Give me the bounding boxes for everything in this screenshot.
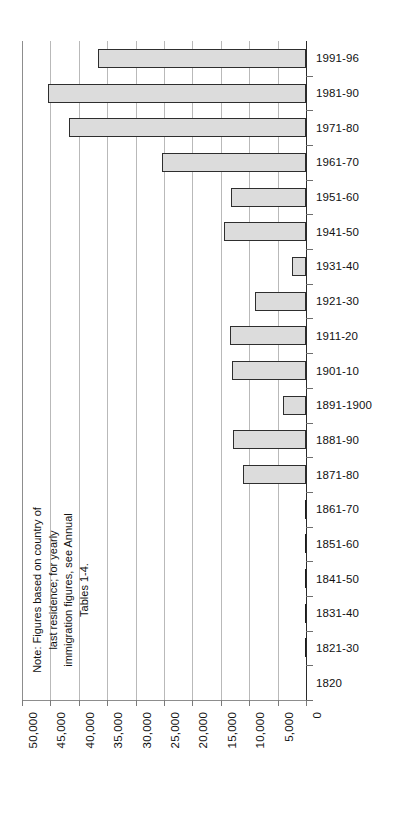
value-tick-label: 25,000 [169, 712, 181, 748]
gridline [192, 41, 193, 700]
category-label: 1941-50 [316, 226, 359, 238]
value-tick-mark [50, 700, 51, 706]
bar [243, 465, 306, 484]
category-tick-mark [306, 388, 313, 389]
value-tick-label: 30,000 [141, 712, 153, 748]
bar [255, 292, 306, 311]
value-tick-label: 10,000 [254, 712, 266, 748]
chart-note: Note: Figures based on country oflast re… [30, 490, 92, 690]
bar [48, 84, 306, 103]
gridline [136, 41, 137, 700]
category-tick-mark [306, 76, 313, 77]
category-tick-mark [306, 527, 313, 528]
category-label: 1961-70 [316, 156, 359, 168]
bar [305, 500, 306, 519]
value-tick-mark [136, 700, 137, 706]
value-tick-label: 40,000 [84, 712, 96, 748]
category-tick-mark [306, 145, 313, 146]
chart-note-line: Note: Figures based on country of [30, 490, 46, 690]
bar-chart-figure: 1991-961981-901971-801961-701951-601941-… [0, 0, 399, 822]
category-label: 1820 [316, 677, 342, 689]
bar [231, 188, 306, 207]
bar [162, 153, 306, 172]
value-tick-label: 20,000 [197, 712, 209, 748]
category-tick-mark [306, 631, 313, 632]
category-label: 1821-30 [316, 642, 359, 654]
value-tick-label: 35,000 [112, 712, 124, 748]
category-label: 1951-60 [316, 191, 359, 203]
category-label: 1881-90 [316, 434, 359, 446]
value-axis-line [306, 41, 307, 702]
category-label: 1971-80 [316, 122, 359, 134]
chart-note-line: immigration figures, see Annual [61, 490, 77, 690]
bar [292, 257, 306, 276]
category-label: 1911-20 [316, 330, 358, 342]
value-tick-label: 50,000 [27, 712, 39, 748]
category-tick-mark [306, 665, 313, 666]
gridline [22, 41, 23, 700]
chart-note-line: last residence; for yearly [46, 490, 62, 690]
value-tick-label: 45,000 [55, 712, 67, 748]
category-label: 1861-70 [316, 503, 359, 515]
bar [69, 118, 306, 137]
category-label: 1851-60 [316, 538, 359, 550]
value-tick-mark [107, 700, 108, 706]
category-label: 1981-90 [316, 87, 359, 99]
category-tick-mark [306, 492, 313, 493]
value-tick-label: 15,000 [226, 712, 238, 748]
value-tick-mark [221, 700, 222, 706]
category-label: 1831-40 [316, 607, 359, 619]
bar [98, 49, 306, 68]
category-tick-mark [306, 180, 313, 181]
category-tick-mark [306, 561, 313, 562]
category-tick-mark [306, 596, 313, 597]
bar [233, 430, 306, 449]
bar [305, 604, 306, 623]
category-tick-mark [306, 457, 313, 458]
bar [232, 361, 306, 380]
value-tick-mark [192, 700, 193, 706]
category-tick-mark [306, 284, 313, 285]
category-label: 1921-30 [316, 295, 359, 307]
value-tick-mark [278, 700, 279, 706]
bar [305, 534, 306, 553]
category-tick-mark [306, 249, 313, 250]
category-label: 1901-10 [316, 365, 359, 377]
value-tick-mark [164, 700, 165, 706]
category-label: 1841-50 [316, 573, 359, 585]
value-tick-label: 0 [311, 712, 323, 719]
category-label: 1931-40 [316, 260, 359, 272]
bar [224, 222, 306, 241]
category-tick-mark [306, 110, 313, 111]
category-tick-mark [306, 318, 313, 319]
category-tick-mark [306, 700, 313, 701]
gridline [107, 41, 108, 700]
value-tick-mark [249, 700, 250, 706]
category-label: 1871-80 [316, 469, 359, 481]
value-tick-mark [79, 700, 80, 706]
category-label: 1891-1900 [316, 399, 372, 411]
value-tick-mark [22, 700, 23, 706]
bar [230, 326, 306, 345]
category-label: 1991-96 [316, 52, 359, 64]
category-tick-mark [306, 353, 313, 354]
category-tick-mark [306, 423, 313, 424]
bar [305, 638, 306, 657]
chart-note-line: Tables 1-4. [77, 490, 93, 690]
gridline [164, 41, 165, 700]
category-tick-mark [306, 214, 313, 215]
bar [283, 396, 306, 415]
bar [305, 569, 306, 588]
gridline [221, 41, 222, 700]
value-tick-label: 5,000 [283, 712, 295, 742]
